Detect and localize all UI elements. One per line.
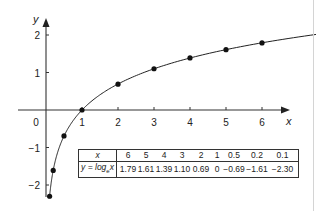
x-axis-arrow-icon (281, 107, 290, 114)
table-header-x: x (79, 150, 117, 162)
values-table: x 6543210.50.20.1 y = logex 1.791.611.39… (78, 149, 299, 178)
table-cell-y: −0.69 (223, 164, 245, 175)
y-tick-label: 1 (34, 68, 40, 79)
table-cell-x: 0.1 (269, 150, 296, 161)
x-tick-label: 4 (187, 117, 193, 128)
y-values: 1.791.611.391.100.690−0.69−1.61−2.30 (119, 164, 296, 175)
x-tick-label: 6 (259, 117, 265, 128)
origin-label: 0 (33, 117, 39, 128)
table-row-x: x 6543210.50.20.1 (79, 150, 299, 162)
y-axis-label: y (32, 13, 40, 25)
data-point (223, 47, 228, 52)
data-point (115, 82, 120, 87)
table-cell-x: 1 (211, 150, 223, 161)
table-cell-x: 4 (155, 150, 173, 161)
y-axis (43, 18, 50, 197)
table-cell-y: 1.39 (155, 164, 173, 175)
y-axis-arrow-icon (43, 18, 50, 27)
log-chart: 123456 −2−112 x y 0 (0, 0, 320, 211)
table-cell-x: 0.2 (245, 150, 269, 161)
table-cell-y: 0 (211, 164, 223, 175)
table-cell-y: 1.61 (137, 164, 155, 175)
y-tick-label: 2 (34, 30, 40, 41)
table-cell-y: 0.69 (191, 164, 211, 175)
y-tick-label: −2 (29, 180, 41, 191)
data-point (61, 133, 66, 138)
data-point (47, 194, 52, 199)
x-tick-label: 1 (79, 117, 85, 128)
table-row-y: y = logex 1.791.611.391.100.690−0.69−1.6… (79, 162, 299, 178)
table-cell-x: 6 (119, 150, 137, 161)
table-cell-x: 5 (137, 150, 155, 161)
data-point (51, 168, 56, 173)
table-cell-y: −1.61 (245, 164, 269, 175)
page-edge-divider (313, 0, 314, 211)
table-cell-x: 3 (173, 150, 191, 161)
table-cell-x: 0.5 (223, 150, 245, 161)
table-header-y: y = logex (79, 162, 117, 178)
data-point (187, 55, 192, 60)
x-tick-label: 2 (115, 117, 121, 128)
x-tick-label: 3 (151, 117, 157, 128)
table-cell-y: 1.79 (119, 164, 137, 175)
table-cell-y: 1.10 (173, 164, 191, 175)
data-point (79, 107, 84, 112)
table-cell-y: −2.30 (269, 164, 296, 175)
x-tick-label: 5 (223, 117, 229, 128)
data-point (259, 40, 264, 45)
x-values: 6543210.50.20.1 (119, 150, 296, 161)
y-tick-label: −1 (29, 143, 41, 154)
data-point (151, 66, 156, 71)
x-axis-label: x (285, 115, 292, 127)
table-cell-x: 2 (191, 150, 211, 161)
